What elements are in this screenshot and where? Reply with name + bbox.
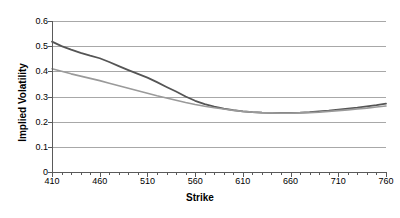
implied-volatility-chart: 00.10.20.30.40.50.6 41046051056061066071… [0,0,400,218]
x-tick-minor-690 [319,172,320,175]
x-tick-minor-440 [81,172,82,175]
x-tick-minor-490 [128,172,129,175]
x-tick-mark-410 [52,172,53,177]
x-tick-mark-760 [386,172,387,177]
x-tick-minor-480 [119,172,120,175]
x-tick-minor-580 [214,172,215,175]
x-tick-label-710: 710 [331,176,346,186]
x-tick-label-460: 460 [92,176,107,186]
x-tick-mark-460 [100,172,101,177]
x-tick-minor-590 [224,172,225,175]
x-tick-label-760: 760 [378,176,393,186]
x-tick-minor-600 [233,172,234,175]
y-tick-label-0.3: 0.3 [35,92,48,102]
x-tick-label-660: 660 [283,176,298,186]
plot-area [52,21,386,172]
x-tick-minor-540 [176,172,177,175]
x-tick-minor-640 [271,172,272,175]
x-tick-label-610: 610 [235,176,250,186]
x-tick-minor-680 [310,172,311,175]
x-tick-mark-510 [147,172,148,177]
y-axis-line [52,21,53,173]
series-layer [52,21,386,172]
x-tick-minor-620 [252,172,253,175]
y-tick-label-0.1: 0.1 [35,142,48,152]
x-tick-minor-700 [329,172,330,175]
x-tick-minor-570 [205,172,206,175]
x-tick-minor-450 [90,172,91,175]
x-tick-minor-730 [357,172,358,175]
x-tick-mark-660 [291,172,292,177]
x-tick-mark-710 [338,172,339,177]
x-tick-minor-720 [348,172,349,175]
y-tick-label-0.6: 0.6 [35,16,48,26]
x-tick-minor-630 [262,172,263,175]
x-axis-title: Strike [0,192,400,203]
x-tick-minor-740 [367,172,368,175]
x-tick-mark-560 [195,172,196,177]
x-tick-label-560: 560 [188,176,203,186]
x-tick-minor-500 [138,172,139,175]
x-tick-label-410: 410 [44,176,59,186]
x-tick-minor-750 [376,172,377,175]
x-tick-minor-550 [186,172,187,175]
y-tick-label-0.2: 0.2 [35,117,48,127]
series-line-model-implied-volatility [52,69,386,113]
x-tick-minor-520 [157,172,158,175]
x-tick-minor-420 [62,172,63,175]
series-line-market-implied-volatility [52,42,386,113]
x-tick-label-510: 510 [140,176,155,186]
x-tick-mark-610 [243,172,244,177]
x-axis-line [52,172,387,173]
x-tick-minor-530 [167,172,168,175]
y-tick-label-0.4: 0.4 [35,66,48,76]
y-tick-label-0.5: 0.5 [35,41,48,51]
y-axis-title: Implied Volatility [17,48,28,158]
x-tick-minor-430 [71,172,72,175]
x-tick-minor-670 [300,172,301,175]
x-tick-minor-470 [109,172,110,175]
x-tick-minor-650 [281,172,282,175]
